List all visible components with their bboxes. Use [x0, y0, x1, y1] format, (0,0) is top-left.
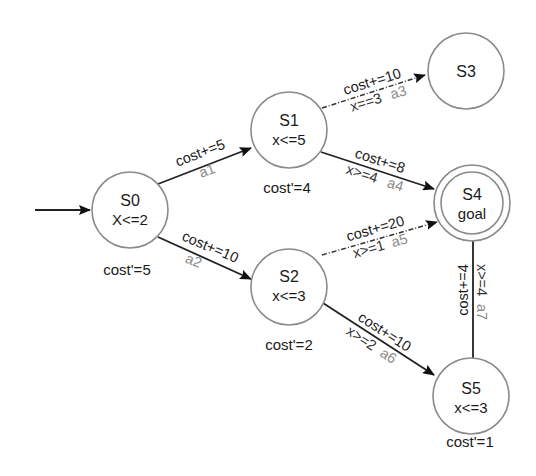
edge-s2-s5: cost+=10 x>=2 a6 — [323, 303, 434, 375]
edge-s1-s3: cost+=10 x==3 a3 — [322, 65, 425, 115]
state-invariant: x<=5 — [272, 131, 305, 148]
edge-action-label: a3 — [388, 82, 408, 102]
state-cost-rate: cost'=5 — [103, 261, 150, 278]
state-s3: S3 — [428, 33, 504, 109]
edge-action-label: a7 — [474, 304, 490, 320]
state-s5: S5 x<=3 cost'=1 — [433, 358, 509, 450]
state-name: S2 — [279, 268, 299, 285]
state-name: S4 — [462, 186, 482, 203]
state-cost-rate: cost'=1 — [446, 433, 493, 450]
state-s4-goal: S4 goal — [434, 165, 510, 241]
edge-action-label: a4 — [385, 174, 405, 194]
state-s2: S2 x<=3 cost'=2 — [251, 249, 327, 353]
state-cost-rate: cost'=4 — [263, 179, 310, 196]
state-invariant: x<=3 — [454, 399, 487, 416]
state-name: S1 — [279, 112, 299, 129]
edge-guard-label: x>=4 — [474, 264, 490, 296]
state-invariant: X<=2 — [112, 211, 148, 228]
state-cost-rate: cost'=2 — [265, 336, 312, 353]
edge-s1-s4: cost+=8 x>=4 a4 — [321, 144, 434, 195]
state-s1: S1 x<=5 cost'=4 — [251, 92, 327, 196]
edge-s2-s4: cost+=20 x>=1 a5 — [322, 212, 437, 261]
state-goal-label: goal — [458, 205, 486, 222]
edge-update-label: cost+=4 — [455, 264, 471, 316]
edge-action-label: a5 — [389, 230, 409, 250]
edge-s0-s2: cost+=10 a2 — [158, 228, 251, 284]
state-invariant: x<=3 — [272, 287, 305, 304]
state-name: S0 — [120, 192, 140, 209]
state-name: S5 — [461, 380, 481, 397]
state-s0: S0 X<=2 cost'=5 — [92, 172, 168, 278]
edge-s0-s1: cost+=5 a1 — [158, 136, 251, 187]
edge-s5-s4: cost+=4 x>=4 a7 — [455, 226, 490, 359]
state-name: S3 — [456, 63, 476, 80]
edge-action-label: a2 — [183, 250, 204, 271]
automaton-diagram: cost+=5 a1 cost+=10 a2 cost+=10 x==3 a3 … — [0, 0, 536, 476]
